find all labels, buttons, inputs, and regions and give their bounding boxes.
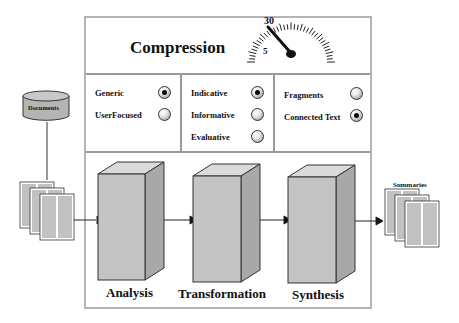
input-documents-icon	[20, 182, 74, 240]
stage-transformation-label: Transformation	[178, 286, 266, 302]
summaries-label: Summaries	[393, 181, 427, 189]
process-diagram	[0, 0, 459, 323]
summaries-documents-icon	[385, 189, 439, 247]
stage-synthesis-label: Synthesis	[292, 287, 344, 303]
stage-analysis-label: Analysis	[106, 285, 153, 301]
documents-label: Documents	[28, 104, 59, 111]
